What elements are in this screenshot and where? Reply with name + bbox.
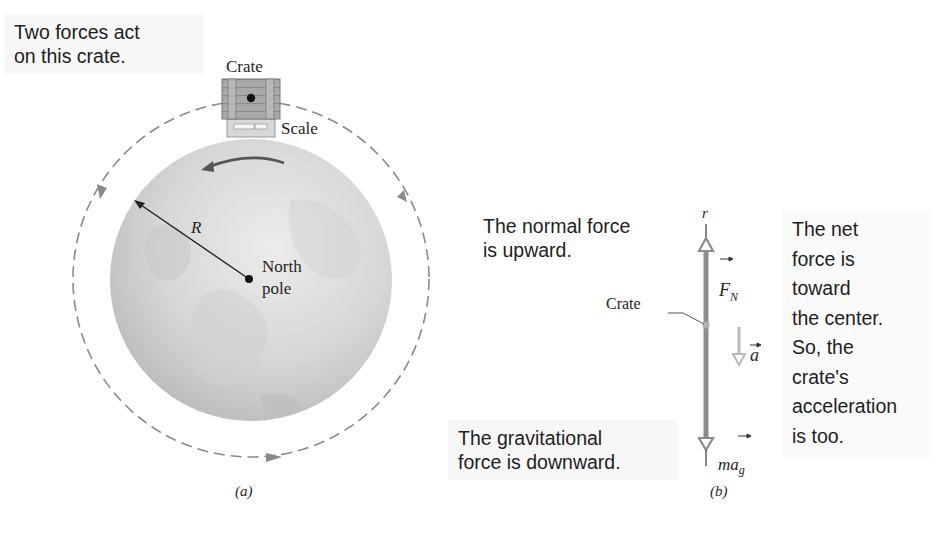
crate-icon	[222, 79, 280, 119]
normal-force-callout: The normal force is upward.	[473, 208, 685, 268]
panel-a-caption: (a)	[235, 482, 253, 501]
normal-force-arrowhead-icon	[699, 238, 713, 251]
normal-force-symbol: FN	[719, 262, 738, 307]
radius-label: R	[191, 218, 201, 237]
crate-point-label: Crate	[606, 294, 641, 313]
north-pole-dot	[245, 275, 253, 283]
crate-point	[703, 322, 710, 329]
crate-center-dot	[247, 94, 255, 102]
radial-axis-label: r	[702, 204, 708, 223]
orbit-arrow-bottom-icon	[266, 453, 282, 462]
scale-icon	[227, 119, 275, 137]
figure: Two forces act on this crate. Crate Scal…	[0, 0, 937, 533]
acceleration-arrow-icon	[733, 327, 745, 365]
panel-b-caption: (b)	[710, 482, 728, 501]
gravitational-force-callout: The gravitational force is downward.	[448, 420, 678, 480]
gravity-force-symbol: mag	[718, 436, 745, 480]
crate-label: Crate	[226, 57, 263, 76]
net-force-callout: The net force is toward the center. So, …	[782, 209, 932, 457]
acceleration-symbol: a	[750, 346, 759, 365]
orbit-arrow-left-icon	[97, 184, 107, 199]
scale-label: Scale	[281, 119, 318, 138]
north-pole-label: North pole	[262, 256, 302, 300]
two-forces-callout: Two forces act on this crate.	[4, 14, 204, 74]
gravity-force-arrowhead-icon	[699, 438, 713, 450]
